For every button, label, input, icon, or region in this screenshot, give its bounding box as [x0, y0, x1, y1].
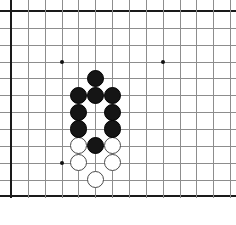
star-point [60, 161, 64, 165]
grid-line-horizontal [0, 45, 236, 46]
board-edge-line-vertical [10, 0, 12, 198]
grid-line-vertical [196, 0, 197, 198]
grid-line-vertical [230, 0, 231, 198]
grid-line-vertical [45, 0, 46, 198]
board-edge-line-horizontal [0, 10, 236, 12]
black-stone[interactable] [70, 87, 87, 104]
black-stone[interactable] [104, 120, 121, 137]
white-stone[interactable] [70, 154, 87, 171]
white-stone[interactable] [70, 137, 87, 154]
grid-line-vertical [163, 0, 164, 198]
grid-line-horizontal [0, 180, 236, 181]
black-stone[interactable] [70, 104, 87, 121]
grid-line-vertical [129, 0, 130, 198]
grid-line-vertical [146, 0, 147, 198]
black-stone[interactable] [70, 120, 87, 137]
go-board-figure [0, 0, 236, 225]
board-edge-line-horizontal [0, 195, 236, 197]
black-stone[interactable] [104, 87, 121, 104]
grid-line-horizontal [0, 62, 236, 63]
grid-line-vertical [213, 0, 214, 198]
black-stone[interactable] [87, 137, 104, 154]
star-point [60, 60, 64, 64]
white-stone[interactable] [87, 171, 104, 188]
grid-line-vertical [28, 0, 29, 198]
black-stone[interactable] [104, 104, 121, 121]
grid-line-vertical [180, 0, 181, 198]
white-stone[interactable] [104, 137, 121, 154]
star-point [161, 60, 165, 64]
grid-line-horizontal [0, 28, 236, 29]
grid-line-vertical [62, 0, 63, 198]
grid-line-horizontal [0, 78, 236, 79]
black-stone[interactable] [87, 70, 104, 87]
black-stone[interactable] [87, 87, 104, 104]
goban-grid[interactable] [0, 0, 236, 225]
white-stone[interactable] [104, 154, 121, 171]
